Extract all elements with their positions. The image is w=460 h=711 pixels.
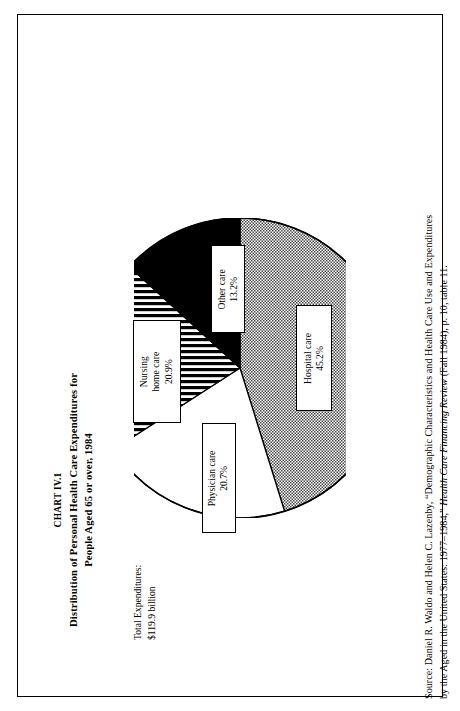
total-expenditures-label: Total Expenditures: (131, 565, 145, 640)
source-note: Source: Daniel R. Waldo and Helen C. Laz… (421, 215, 451, 699)
source-line-2: by the Aged in the United States: 1977–1… (436, 215, 451, 699)
pie-label-nursing-home-care: Nursing home care 20.9% (133, 320, 181, 423)
title-line-1: Distribution of Personal Health Care Exp… (66, 373, 81, 627)
pie-label-other-care-value: 13.2% (228, 269, 240, 309)
pie-label-other-care-name: Other care (216, 269, 228, 309)
pie-label-hospital-care: Hospital care 45.2% (296, 305, 332, 411)
page-border: CHART IV.1 Distribution of Personal Heal… (17, 14, 443, 697)
total-expenditures-value: $119.9 billion (145, 565, 159, 640)
source-line-2-part-b: (Fall 1984), p. 10, table 11. (438, 265, 449, 379)
pie-label-nursing-home-care-name-2: home care (151, 352, 163, 392)
pie-label-physician-care: Physician care 20.7% (202, 423, 236, 533)
pie-label-physician-care-value: 20.7% (219, 450, 231, 506)
title-line-2: People Aged 65 or over, 1984 (81, 373, 96, 627)
total-expenditures: Total Expenditures: $119.9 billion (131, 565, 159, 640)
source-line-2-part-a: by the Aged in the United States: 1977–1… (438, 506, 449, 699)
page-title: CHART IV.1 Distribution of Personal Heal… (52, 373, 96, 627)
chart-page: CHART IV.1 Distribution of Personal Heal… (0, 0, 460, 711)
pie-label-nursing-home-care-value: 20.9% (163, 352, 175, 392)
pie-label-hospital-care-name: Hospital care (302, 333, 314, 384)
pie-label-hospital-care-value: 45.2% (314, 333, 326, 384)
pie-label-nursing-home-care-name-1: Nursing (138, 352, 150, 392)
pie-label-other-care: Other care 13.2% (211, 245, 245, 333)
pie-label-physician-care-name: Physician care (207, 450, 219, 506)
source-line-1: Source: Daniel R. Waldo and Helen C. Laz… (421, 215, 436, 699)
chart-number: CHART IV.1 (52, 373, 65, 627)
source-journal-title: Health Care Financing Review (438, 379, 449, 506)
